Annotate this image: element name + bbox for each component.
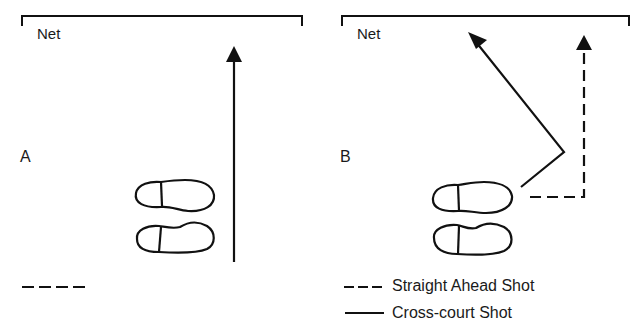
legend-cross-court-label: Cross-court Shot [392,305,512,321]
panel-label-b: B [340,149,351,165]
net-bracket-a [22,16,302,26]
tennis-shot-diagram [0,0,637,334]
footprint-top-b [433,182,512,213]
panel-b [342,16,629,313]
footprint-top-a [136,180,214,211]
net-label-b: Net [357,26,380,41]
panel-a [22,16,302,287]
legend-swatches-b [344,287,386,313]
arrow-straight-a [226,46,242,262]
net-bracket-b [342,16,629,26]
net-label-a: Net [37,26,60,41]
legend-straight-ahead-label: Straight Ahead Shot [392,278,534,294]
arrow-cross-court-b [468,32,564,187]
panel-label-a: A [20,149,31,165]
footprint-bottom-b [434,224,512,255]
footprint-bottom-a [137,223,214,253]
